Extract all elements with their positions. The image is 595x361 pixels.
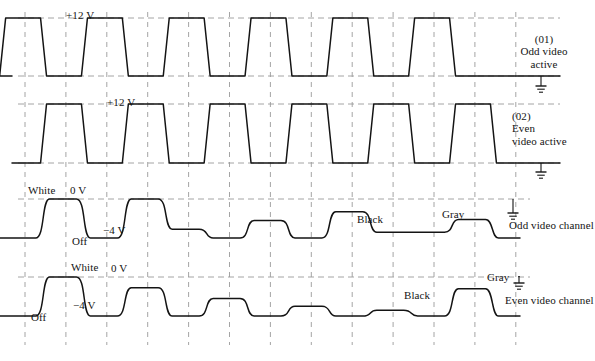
trace-01-right-label: (01)Odd videoactive <box>508 33 580 70</box>
ground-symbol <box>536 79 547 92</box>
ground-symbol <box>508 206 519 219</box>
waveform-odd-video-active <box>0 18 560 76</box>
annotation-white-trace-4: White <box>71 262 98 274</box>
waveform-diagram-canvas: +12 V (01)Odd videoactive +12 V (02)Even… <box>0 0 595 361</box>
waveform-even-video-active <box>12 104 560 163</box>
annotation-off-trace-3: Off <box>72 236 87 248</box>
ground-symbol <box>514 276 525 289</box>
trace-03-zero-volt-label: 0 V <box>70 185 86 197</box>
trace-01-right-label-line-1: Odd video <box>508 45 580 57</box>
trace-02-right-label-line-0: (02) <box>512 110 567 122</box>
trace-01-right-label-line-0: (01) <box>508 33 580 45</box>
trace-02-right-label-line-1: Even <box>512 122 567 134</box>
trace-01-level-label: +12 V <box>66 10 94 22</box>
trace-04-channel-label: Even video channel <box>505 295 594 307</box>
trace-03-channel-label: Odd video channel <box>509 220 594 232</box>
annotation-gray-trace-4: Gray <box>487 272 509 284</box>
trace-04-negative-volt-label: −4 V <box>73 300 96 312</box>
trace-02-right-label-line-2: video active <box>512 135 567 147</box>
ground-symbol <box>536 165 547 178</box>
annotation-gray-trace-3: Gray <box>442 209 464 221</box>
trace-01-right-label-line-2: active <box>508 58 580 70</box>
annotation-white-trace-3: White <box>28 185 55 197</box>
grid-layer <box>18 12 560 345</box>
trace-02-right-label: (02)Evenvideo active <box>512 110 567 147</box>
annotation-off-trace-4: Off <box>31 312 46 324</box>
annotation-black-trace-4: Black <box>404 290 430 302</box>
trace-03-negative-volt-label: −4 V <box>103 225 126 237</box>
ground-symbol-layer <box>508 76 547 289</box>
annotation-black-trace-3: Black <box>357 214 383 226</box>
trace-04-zero-volt-label: 0 V <box>111 263 127 275</box>
trace-02-level-label: +12 V <box>107 97 135 109</box>
